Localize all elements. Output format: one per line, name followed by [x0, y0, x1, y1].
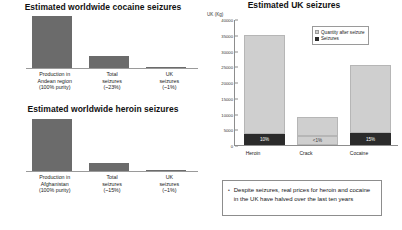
- x-label-cocaine-total: Total seizures (~23%): [83, 71, 140, 91]
- plot-area-cocaine: [26, 16, 198, 69]
- segment-quantity-after-seizure-cocaine: [350, 65, 391, 133]
- x-label-line: Afghanistan: [26, 181, 83, 188]
- x-label-uk-cocaine: Cocaine: [336, 150, 382, 156]
- y-axis-unit-label: UK (Kg): [207, 12, 223, 17]
- y-tick-mark: [235, 35, 238, 36]
- segment-seizures-cocaine: 15%: [350, 133, 391, 145]
- x-label-heroin-production: Production in Afghanistan (100% purity): [26, 174, 83, 194]
- segment-quantity-after-seizure-heroin: [244, 35, 285, 134]
- bar-cocaine-uk-seizures: [146, 67, 186, 68]
- y-tick-label-20000: 20000: [221, 81, 235, 86]
- y-tick-label-35000: 35000: [221, 33, 235, 38]
- legend-swatch-icon: [315, 37, 319, 41]
- y-tick-mark: [235, 130, 238, 131]
- bar-value-label-heroin: 10%: [260, 137, 269, 142]
- x-label-cocaine-uk: UK seizures (~1%): [141, 71, 198, 91]
- y-tick-label-30000: 30000: [221, 49, 235, 54]
- chart-legend-uk: Quantity after seizure Seizures: [312, 26, 369, 45]
- x-label-line: Total: [83, 71, 140, 78]
- x-label-line: (100% purity): [26, 187, 83, 194]
- y-tick-mark: [235, 114, 238, 115]
- x-label-uk-heroin: Heroin: [230, 150, 276, 156]
- chart-worldwide-cocaine: Estimated worldwide cocaine seizures Pro…: [0, 2, 206, 102]
- x-label-line: Production in: [26, 174, 83, 181]
- x-label-heroin-total: Total seizures (~15%): [83, 174, 140, 194]
- x-label-line: (~1%): [141, 187, 198, 194]
- bar-cocaine-total-seizures: [89, 56, 129, 68]
- x-label-heroin-uk: UK seizures (~1%): [141, 174, 198, 194]
- x-label-cocaine-production: Production in Andean region (100% purity…: [26, 71, 83, 91]
- y-tick-mark: [235, 98, 238, 99]
- y-tick-mark: [235, 67, 238, 68]
- x-label-line: (~1%): [141, 84, 198, 91]
- segment-quantity-after-seizure-crack: [297, 117, 338, 136]
- bar-value-label-cocaine: 15%: [366, 137, 375, 142]
- stacked-bar-heroin: 10%: [244, 35, 285, 145]
- chart-title-cocaine: Estimated worldwide cocaine seizures: [0, 2, 206, 12]
- callout-box: • Despite seizures, real prices for hero…: [222, 180, 382, 216]
- stacked-bar-crack: <1%: [297, 117, 338, 145]
- legend-item-seizures: Seizures: [315, 36, 365, 43]
- bar-group-heroin: [26, 119, 198, 171]
- bar-heroin-total-seizures: [89, 163, 129, 171]
- segment-seizures-crack: <1%: [297, 136, 338, 145]
- x-labels-cocaine: Production in Andean region (100% purity…: [26, 71, 198, 91]
- bar-heroin-production: [32, 119, 72, 171]
- x-label-line: seizures: [83, 78, 140, 85]
- y-tick-label-25000: 25000: [221, 65, 235, 70]
- y-tick-mark: [235, 146, 238, 147]
- y-tick-mark: [235, 51, 238, 52]
- chart-title-uk: Estimated UK seizures: [206, 0, 382, 10]
- legend-label-quantity-after-seizure: Quantity after seizure: [321, 30, 365, 35]
- x-label-uk-crack: Crack: [283, 150, 329, 156]
- y-tick-mark: [235, 83, 238, 84]
- chart-uk-seizures: Estimated UK seizures UK (Kg) 40000 3500…: [206, 0, 402, 166]
- chart-title-heroin: Estimated worldwide heroin seizures: [0, 104, 206, 114]
- legend-label-seizures: Seizures: [321, 36, 339, 41]
- x-label-line: seizures: [83, 181, 140, 188]
- x-labels-heroin: Production in Afghanistan (100% purity) …: [26, 174, 198, 194]
- y-tick-label-10000: 10000: [221, 112, 235, 117]
- bar-group-cocaine: [26, 16, 198, 68]
- stacked-bar-cocaine: 15%: [350, 65, 391, 145]
- bar-cocaine-production: [32, 16, 72, 68]
- callout-text: Despite seizures, real prices for heroin…: [234, 186, 375, 210]
- x-label-line: UK: [141, 174, 198, 181]
- chart-worldwide-heroin: Estimated worldwide heroin seizures Prod…: [0, 104, 206, 214]
- x-label-line: Production in: [26, 71, 83, 78]
- bullet-icon: •: [228, 186, 230, 210]
- y-tick-label-40000: 40000: [221, 18, 235, 23]
- y-tick-label-15000: 15000: [221, 96, 235, 101]
- plot-area-heroin: [26, 119, 198, 172]
- y-tick-mark: [235, 20, 238, 21]
- y-tick-label-0: 0: [231, 144, 235, 149]
- bar-heroin-uk-seizures: [146, 170, 186, 171]
- x-label-line: (100% purity): [26, 84, 83, 91]
- x-label-line: seizures: [141, 78, 198, 85]
- x-label-line: seizures: [141, 181, 198, 188]
- slide-canvas: Estimated worldwide cocaine seizures Pro…: [0, 0, 402, 230]
- x-label-line: UK: [141, 71, 198, 78]
- y-tick-label-5000: 5000: [224, 128, 235, 133]
- legend-item-quantity-after-seizure: Quantity after seizure: [315, 29, 365, 36]
- x-label-line: (~15%): [83, 187, 140, 194]
- x-label-line: (~23%): [83, 84, 140, 91]
- segment-seizures-heroin: 10%: [244, 134, 285, 145]
- legend-swatch-icon: [315, 30, 319, 34]
- bar-value-label-crack: <1%: [313, 138, 322, 143]
- x-label-line: Andean region: [26, 78, 83, 85]
- x-label-line: Total: [83, 174, 140, 181]
